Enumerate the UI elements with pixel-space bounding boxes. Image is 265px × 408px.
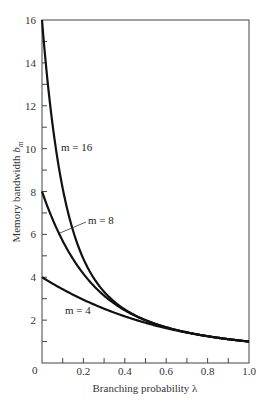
y-tick-label: 14 bbox=[25, 57, 37, 69]
x-tick-label: 0.8 bbox=[201, 365, 215, 377]
label-m8: m = 8 bbox=[88, 214, 114, 226]
bandwidth-chart: 0.20.40.60.81.0246810121416 0 Branching … bbox=[0, 0, 265, 408]
x-tick-label: 0.4 bbox=[118, 365, 132, 377]
label-m16: m = 16 bbox=[61, 141, 93, 153]
curves bbox=[42, 20, 249, 342]
x-tick-label: 0.2 bbox=[77, 365, 91, 377]
y-tick-label: 4 bbox=[31, 271, 37, 283]
y-axis-title: Memory bandwidth bm bbox=[10, 141, 25, 242]
y-axis-title-main: Memory bandwidth bbox=[10, 153, 22, 243]
curve-m16 bbox=[42, 20, 249, 342]
y-tick-label: 12 bbox=[25, 100, 36, 112]
x-axis-title: Branching probability λ bbox=[93, 382, 199, 394]
x-tick-label: 0.6 bbox=[159, 365, 173, 377]
x-tick-label: 1.0 bbox=[242, 365, 256, 377]
y-tick-label: 16 bbox=[25, 14, 37, 26]
y-tick-label: 10 bbox=[25, 143, 37, 155]
y-axis-title-sub: m bbox=[16, 141, 25, 147]
y-tick-label: 6 bbox=[31, 228, 37, 240]
y-tick-label: 8 bbox=[31, 186, 37, 198]
y-tick-label: 2 bbox=[31, 314, 37, 326]
label-m4: m = 4 bbox=[65, 304, 91, 316]
origin-label: 0 bbox=[32, 364, 38, 376]
